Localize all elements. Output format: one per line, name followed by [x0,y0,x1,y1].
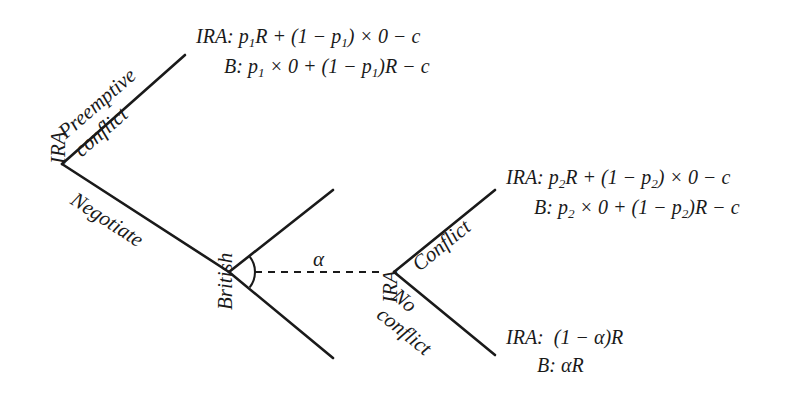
payoff-no-conflict: IRA: (1 − α)R B: αR [506,323,623,380]
payoff-expression: p2 × 0 + (1 − p2)R − c [558,196,740,218]
payoff-preemptive-conflict: IRA: p1R + (1 − p1) × 0 − c B: p1 × 0 + … [196,22,430,83]
angle-label-alpha: α [313,247,324,272]
payoff-row: B: p1 × 0 + (1 − p1)R − c [196,52,430,82]
payoff-player: B: [537,354,556,376]
payoff-player: IRA: [506,166,544,188]
payoff-row: B: αR [506,351,623,379]
branch-british-lower [229,272,333,358]
payoff-player: B: [534,196,553,218]
payoff-player: IRA: [506,326,544,348]
payoff-player: B: [224,55,243,77]
payoff-player: IRA: [196,25,234,47]
payoff-row: IRA: (1 − α)R [506,323,623,351]
node-label-british: British [213,253,238,310]
payoff-expression: αR [561,354,584,376]
payoff-expression: p2R + (1 − p2) × 0 − c [549,166,731,188]
payoff-row: B: p2 × 0 + (1 − p2)R − c [506,193,740,223]
payoff-row: IRA: p1R + (1 − p1) × 0 − c [196,22,430,52]
payoff-expression: p1 × 0 + (1 − p1)R − c [248,55,430,77]
payoff-expression: p1R + (1 − p1) × 0 − c [239,25,421,47]
payoff-row: IRA: p2R + (1 − p2) × 0 − c [506,163,740,193]
payoff-expression: (1 − α)R [549,326,624,348]
angle-arc [250,257,255,288]
payoff-conflict: IRA: p2R + (1 − p2) × 0 − c B: p2 × 0 + … [506,163,740,224]
